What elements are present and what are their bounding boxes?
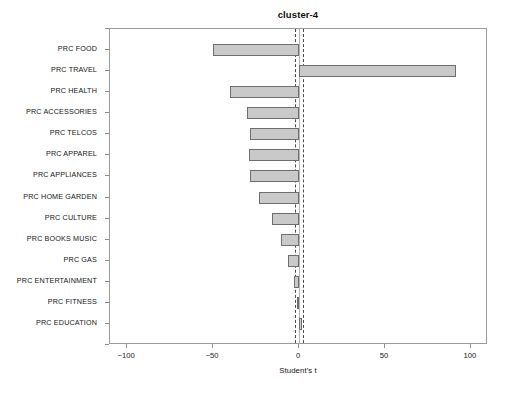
y-label-prc-apparel: PRC APPAREL [46, 150, 97, 158]
x-tick-label: −50 [206, 351, 219, 360]
bar-prc-food [213, 44, 299, 56]
bar-prc-telcos [250, 128, 299, 140]
y-tick [105, 112, 109, 113]
x-tick [212, 344, 213, 348]
plot-area [109, 28, 487, 344]
y-label-prc-education: PRC EDUCATION [36, 319, 97, 327]
bar-prc-culture [272, 213, 299, 225]
bar-prc-fitness [297, 297, 299, 309]
y-tick [105, 218, 109, 219]
bar-prc-apparel [249, 149, 299, 161]
bar-prc-entertainment [294, 276, 299, 288]
y-label-prc-travel: PRC TRAVEL [51, 66, 97, 74]
chart-title: cluster-4 [109, 9, 487, 20]
bar-prc-health [230, 86, 299, 98]
bar-prc-travel [299, 65, 456, 77]
y-tick [105, 133, 109, 134]
y-tick [105, 175, 109, 176]
y-label-prc-accessories: PRC ACCESSORIES [26, 108, 97, 116]
x-tick [470, 344, 471, 348]
bar-prc-accessories [247, 107, 299, 119]
x-tick [126, 344, 127, 348]
x-tick [384, 344, 385, 348]
y-label-prc-home-garden: PRC HOME GARDEN [23, 193, 97, 201]
y-label-prc-fitness: PRC FITNESS [48, 298, 97, 306]
y-label-prc-food: PRC FOOD [58, 45, 97, 53]
y-label-prc-gas: PRC GAS [64, 256, 97, 264]
bar-prc-education [299, 318, 302, 330]
y-tick [105, 281, 109, 282]
reference-line-threshold-1 [295, 29, 296, 343]
y-tick [105, 154, 109, 155]
bar-prc-books-music [281, 234, 299, 246]
bar-prc-appliances [250, 170, 299, 182]
x-tick-label: 0 [296, 351, 300, 360]
y-tick [105, 239, 109, 240]
x-tick-label: 50 [380, 351, 388, 360]
y-label-prc-appliances: PRC APPLIANCES [33, 171, 97, 179]
y-label-prc-books-music: PRC BOOKS MUSIC [27, 235, 97, 243]
bar-prc-gas [288, 255, 299, 267]
y-tick [105, 197, 109, 198]
y-tick [105, 260, 109, 261]
y-label-prc-culture: PRC CULTURE [45, 214, 97, 222]
x-axis-title: Student's t [109, 366, 487, 375]
y-tick [105, 323, 109, 324]
y-label-prc-entertainment: PRC ENTERTAINMENT [17, 277, 97, 285]
y-tick [105, 302, 109, 303]
x-tick-label: 100 [463, 351, 476, 360]
y-tick [105, 91, 109, 92]
bar-prc-home-garden [259, 192, 299, 204]
x-tick [298, 344, 299, 348]
y-label-prc-health: PRC HEALTH [51, 87, 98, 95]
chart-figure: cluster-4 PRC FOODPRC TRAVELPRC HEALTHPR… [0, 0, 514, 395]
y-tick [105, 70, 109, 71]
y-label-prc-telcos: PRC TELCOS [50, 129, 97, 137]
x-axis: −100−50050100 [109, 344, 487, 345]
x-tick-label: −100 [118, 351, 135, 360]
y-tick [105, 28, 109, 29]
y-tick [105, 49, 109, 50]
y-axis-category-labels: PRC FOODPRC TRAVELPRC HEALTHPRC ACCESSOR… [0, 28, 105, 344]
